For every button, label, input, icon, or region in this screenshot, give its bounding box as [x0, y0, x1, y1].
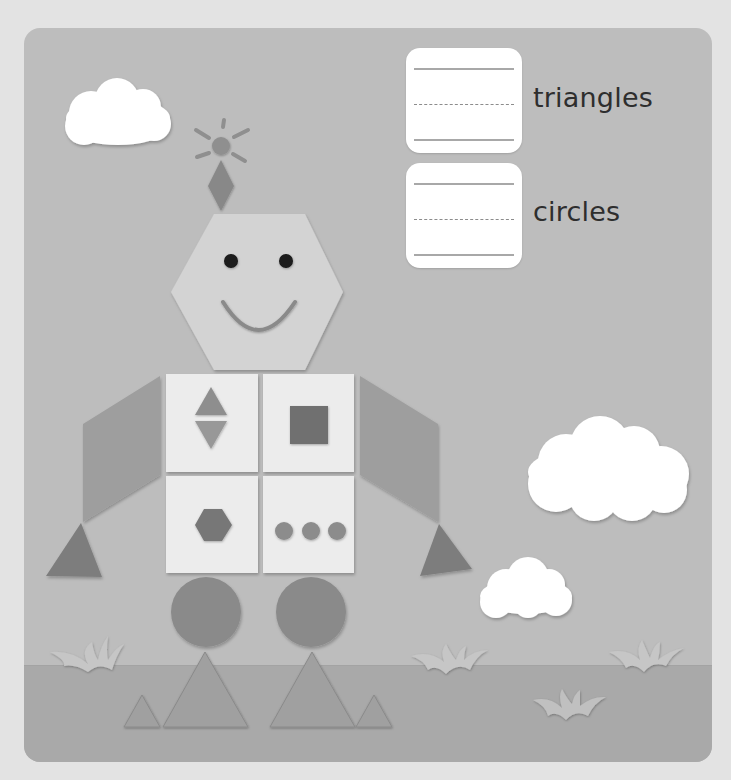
top-guide-line: [414, 68, 514, 70]
circles-answer-box[interactable]: [406, 163, 522, 268]
worksheet-page: triangles circles: [0, 0, 731, 780]
circles-count-input[interactable]: [416, 189, 512, 245]
top-guide-line: [414, 183, 514, 185]
triangles-answer-box[interactable]: [406, 48, 522, 153]
right-leg-circle: [276, 577, 346, 647]
circles-label: circles: [533, 196, 620, 227]
triangles-label: triangles: [533, 82, 653, 113]
robot-scene: [0, 0, 731, 780]
triangles-count-input[interactable]: [416, 74, 512, 130]
right-eye: [279, 254, 293, 268]
tile-circle-2: [302, 522, 320, 540]
bottom-guide-line: [414, 254, 514, 256]
tile-circle-3: [328, 522, 346, 540]
tile-circle-1: [275, 522, 293, 540]
antenna-circle: [212, 137, 230, 155]
left-leg-circle: [171, 577, 241, 647]
left-eye: [224, 254, 238, 268]
tile-square-shape: [290, 406, 328, 444]
bottom-guide-line: [414, 139, 514, 141]
